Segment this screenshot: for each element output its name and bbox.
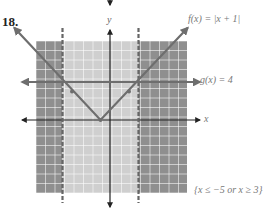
y-axis-label: y <box>107 14 111 25</box>
f-point-right <box>127 90 131 94</box>
solution-label: {x ≤ −5 or x ≥ 3} <box>194 184 263 195</box>
g-label: g(x) = 4 <box>200 74 233 85</box>
f-label: f(x) = |x + 1| <box>188 13 240 24</box>
vertex-point <box>99 118 103 122</box>
x-axis-label: x <box>204 113 208 124</box>
graph <box>0 0 273 211</box>
f-point-left <box>70 90 74 94</box>
